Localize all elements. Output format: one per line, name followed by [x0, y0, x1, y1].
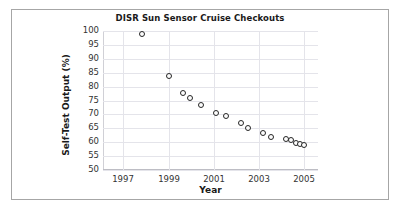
y-tick-label: 100 [75, 26, 99, 35]
data-point [187, 95, 193, 101]
gridline-horizontal [103, 114, 318, 115]
gridline-horizontal [103, 142, 318, 143]
data-point [245, 125, 251, 131]
x-axis-label: Year [103, 185, 318, 195]
x-tick-label: 1999 [147, 174, 191, 184]
y-tick-label: 95 [75, 40, 99, 49]
x-tick-label: 2003 [237, 174, 281, 184]
gridline-horizontal [103, 73, 318, 74]
y-tick-label: 70 [75, 109, 99, 118]
data-point [166, 73, 172, 79]
y-axis-label: Self-Test Output (%) [61, 35, 71, 175]
data-point [260, 130, 266, 136]
gridline-horizontal [103, 59, 318, 60]
x-tick-label: 1997 [101, 174, 145, 184]
gridline-vertical [304, 31, 305, 170]
chart-title: DISR Sun Sensor Cruise Checkouts [80, 13, 320, 23]
y-tick-label: 50 [75, 165, 99, 174]
data-point [180, 90, 186, 96]
gridline-horizontal [103, 31, 318, 32]
x-tick-label: 2005 [282, 174, 326, 184]
data-point [301, 142, 307, 148]
data-point [268, 134, 274, 140]
gridline-horizontal [103, 101, 318, 102]
data-point [238, 120, 244, 126]
chart-figure: DISR Sun Sensor Cruise Checkouts Self-Te… [0, 0, 401, 216]
gridline-horizontal [103, 128, 318, 129]
data-point [139, 31, 145, 37]
y-tick-label: 55 [75, 151, 99, 160]
y-tick-label: 60 [75, 137, 99, 146]
data-point [213, 110, 219, 116]
gridline-vertical [123, 31, 124, 170]
data-point [223, 113, 229, 119]
y-tick-label: 75 [75, 96, 99, 105]
gridline-horizontal [103, 156, 318, 157]
data-point [198, 102, 204, 108]
y-tick-label: 90 [75, 54, 99, 63]
gridline-vertical [214, 31, 215, 170]
gridline-vertical [259, 31, 260, 170]
gridline-horizontal [103, 45, 318, 46]
y-tick-label: 80 [75, 82, 99, 91]
y-tick-label: 65 [75, 123, 99, 132]
y-axis-tick-labels: 50556065707580859095100 [73, 31, 99, 170]
x-tick-label: 2001 [192, 174, 236, 184]
gridline-horizontal [103, 87, 318, 88]
gridline-horizontal [103, 170, 318, 171]
gridline-vertical [169, 31, 170, 170]
y-tick-label: 85 [75, 68, 99, 77]
plot-area [103, 31, 318, 170]
